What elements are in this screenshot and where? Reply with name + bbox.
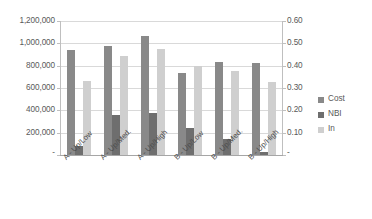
left-axis-tick: - bbox=[52, 149, 55, 157]
bar-cost[interactable] bbox=[215, 62, 223, 155]
right-axis-tick: - bbox=[287, 149, 290, 157]
bar-cost[interactable] bbox=[104, 46, 112, 155]
right-axis-tick: 0.50 bbox=[287, 39, 303, 47]
bar-chart: 1,200,000 1,000,000 800,000 600,000 400,… bbox=[0, 0, 372, 219]
right-axis-tick: 0.10 bbox=[287, 129, 303, 137]
right-axis-labels: 0.60 0.50 0.40 0.30 0.20 0.10 - bbox=[287, 0, 321, 219]
right-tick-mark bbox=[283, 110, 286, 111]
left-axis-tick: 800,000 bbox=[26, 62, 55, 70]
legend: Cost NBI In bbox=[318, 92, 368, 137]
legend-item-cost[interactable]: Cost bbox=[318, 92, 368, 107]
right-axis-tick: 0.60 bbox=[287, 17, 303, 25]
legend-label: In bbox=[328, 125, 335, 133]
legend-swatch-nbi-icon bbox=[318, 112, 324, 118]
legend-label: Cost bbox=[328, 95, 345, 103]
right-axis-tick: 0.20 bbox=[287, 106, 303, 114]
legend-label: NBI bbox=[328, 110, 342, 118]
left-axis-tick: 600,000 bbox=[26, 84, 55, 92]
left-axis-tick: 400,000 bbox=[26, 106, 55, 114]
bar-cost[interactable] bbox=[67, 50, 75, 155]
left-axis-labels: 1,200,000 1,000,000 800,000 600,000 400,… bbox=[0, 0, 55, 219]
right-axis-tick: 0.40 bbox=[287, 62, 303, 70]
left-axis-tick: 1,200,000 bbox=[19, 17, 55, 25]
legend-swatch-in-icon bbox=[318, 127, 324, 133]
left-axis-tick: 1,000,000 bbox=[19, 39, 55, 47]
legend-item-nbi[interactable]: NBI bbox=[318, 107, 368, 122]
bar-cost[interactable] bbox=[141, 36, 149, 155]
bar-cost[interactable] bbox=[252, 63, 260, 155]
right-tick-mark bbox=[283, 133, 286, 134]
right-tick-mark bbox=[283, 43, 286, 44]
category-axis-labels: A - Up/LowA - Up/Med.A - Up/HighB - Up/L… bbox=[60, 156, 282, 218]
right-tick-mark bbox=[283, 21, 286, 22]
right-tick-mark bbox=[283, 88, 286, 89]
legend-item-in[interactable]: In bbox=[318, 122, 368, 137]
legend-swatch-cost-icon bbox=[318, 97, 324, 103]
right-tick-mark bbox=[283, 155, 286, 156]
right-tick-mark bbox=[283, 66, 286, 67]
left-axis-tick: 200,000 bbox=[26, 129, 55, 137]
right-axis-tick: 0.30 bbox=[287, 84, 303, 92]
